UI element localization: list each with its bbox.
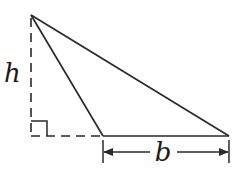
triangle-left-side [31,15,103,136]
base-label: b [155,137,172,167]
right-angle-marker [31,121,47,136]
triangle-diagram: h b [0,0,245,169]
triangle-right-side [31,15,229,136]
height-label: h [4,58,21,88]
